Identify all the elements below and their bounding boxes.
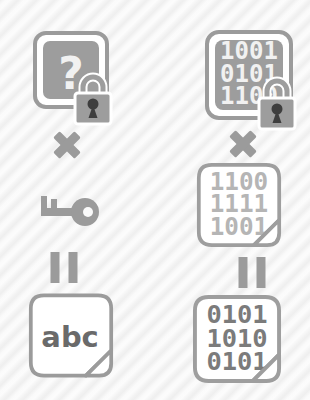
equals-icon (236, 255, 268, 291)
key-binary-page: 1100 1111 1001 (193, 162, 285, 248)
plaintext-abc-page: abc (28, 292, 114, 379)
key-icon (38, 190, 102, 232)
binary-row: 0101 (206, 346, 267, 376)
multiply-icon (225, 126, 261, 162)
encrypted-binary-tile: 1001 0101 1100 (203, 28, 305, 136)
plaintext-binary-page: 0101 1010 0101 (192, 294, 282, 384)
multiply-icon (49, 127, 85, 163)
equals-icon (48, 250, 80, 286)
encrypted-question-tile: ? (31, 29, 117, 129)
encryption-diagram: ? abc (0, 0, 310, 400)
binary-row: 1001 (210, 212, 269, 241)
plaintext-label: abc (41, 320, 98, 354)
